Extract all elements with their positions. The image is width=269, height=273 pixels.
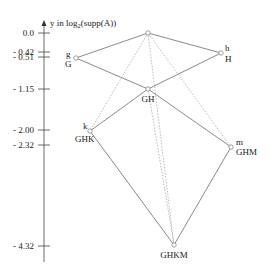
dotted-edges [90,33,231,245]
dotted-edge [90,33,148,131]
lattice-node-h[interactable]: hH [219,43,232,64]
lattice-node-ghk[interactable]: kGHK [75,121,95,144]
axis-tick: - 1.15 [13,84,50,94]
lattice-node-ghm[interactable]: mGHM [229,137,257,157]
concept-lattice-diagram: y in log2(supp(A)) 0.0- 0.42- 0.51- 1.15… [0,0,269,273]
axis-tick-label: - 2.32 [13,140,34,150]
node-circle-icon [219,51,223,55]
node-itemset-label: GHKM [160,250,188,260]
node-itemset-label: GHM [236,147,257,157]
axis-tick: - 2.32 [13,140,50,150]
node-circle-icon [146,87,150,91]
node-attribute-label: k [83,121,88,131]
dotted-edge [148,33,174,245]
solid-edge [90,89,148,131]
axis-tick: - 4.32 [13,241,50,251]
y-axis: y in log2(supp(A)) 0.0- 0.42- 0.51- 1.15… [13,18,116,262]
solid-edge [148,89,231,147]
node-circle-icon [88,129,92,133]
solid-edge [148,33,221,53]
lattice-node-gh[interactable]: GH [142,87,155,104]
axis-tick-label: - 0.51 [13,52,34,62]
node-circle-icon [229,145,233,149]
node-itemset-label: G [65,59,72,69]
node-itemset-label: GH [142,94,155,104]
axis-tick-label: 0.0 [23,28,35,38]
lattice-node-top[interactable] [146,31,150,35]
lattice-node-g[interactable]: gG [65,49,78,69]
solid-edge [148,53,221,89]
axis-tick-label: - 4.32 [13,241,34,251]
node-attribute-label: m [236,137,243,147]
axis-label: y in log2(supp(A)) [50,18,116,29]
solid-edge [174,147,231,245]
node-circle-icon [146,31,150,35]
axis-tick-label: - 1.15 [13,84,34,94]
dotted-edge [148,33,231,147]
node-circle-icon [74,56,78,60]
solid-edge [90,131,174,245]
solid-edge [76,33,148,58]
dotted-edge [148,89,174,245]
axis-tick-label: - 2.00 [13,125,34,135]
node-circle-icon [172,243,176,247]
node-attribute-label: h [225,43,230,53]
node-attribute-label: g [66,49,71,59]
node-itemset-label: GHK [75,134,95,144]
solid-edges [76,33,231,245]
axis-tick: 0.0 [23,28,50,38]
axis-tick: - 0.51 [13,52,50,62]
solid-edge [76,58,148,89]
lattice-node-ghkm[interactable]: GHKM [160,243,188,260]
axis-tick: - 2.00 [13,125,50,135]
axis-arrow-icon [42,20,47,26]
node-itemset-label: H [225,54,232,64]
